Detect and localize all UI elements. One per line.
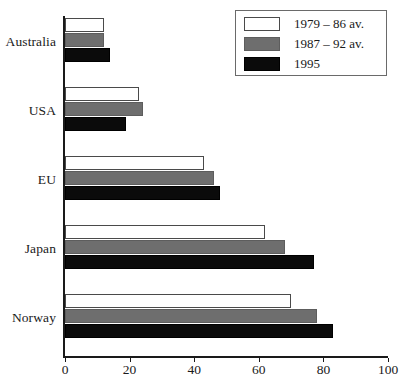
bar-norway-1995 xyxy=(65,324,333,338)
category-label-norway: Norway xyxy=(12,310,56,326)
category-group-norway: Norway xyxy=(65,294,388,342)
legend-entry-1987-92: 1987 – 92 av. xyxy=(244,35,364,53)
x-tick-label-100: 100 xyxy=(378,362,398,378)
bar-usa-1995 xyxy=(65,117,126,131)
legend-label-1987-92: 1987 – 92 av. xyxy=(294,36,364,52)
category-label-australia: Australia xyxy=(6,34,56,50)
bar-eu-1979-86 xyxy=(65,156,204,170)
legend-swatch-1995 xyxy=(244,57,280,71)
category-group-usa: USA xyxy=(65,87,388,135)
bar-eu-1995 xyxy=(65,186,220,200)
legend-swatch-1987-92 xyxy=(244,37,280,51)
bar-norway-1987-92 xyxy=(65,309,317,323)
legend-entry-1995: 1995 xyxy=(244,55,320,73)
x-tick-label-60: 60 xyxy=(252,362,266,378)
bar-japan-1979-86 xyxy=(65,225,265,239)
category-label-usa: USA xyxy=(29,103,56,119)
legend-entry-1979-86: 1979 – 86 av. xyxy=(244,15,364,33)
x-tick-label-0: 0 xyxy=(62,362,69,378)
category-group-japan: Japan xyxy=(65,225,388,273)
bar-japan-1987-92 xyxy=(65,240,285,254)
chart-legend: 1979 – 86 av. 1987 – 92 av. 1995 xyxy=(235,10,387,76)
bar-chart: Australia USA EU Japan Norway xyxy=(0,0,403,389)
category-label-eu: EU xyxy=(38,172,56,188)
bar-norway-1979-86 xyxy=(65,294,291,308)
x-tick-label-40: 40 xyxy=(187,362,201,378)
bar-japan-1995 xyxy=(65,255,314,269)
legend-label-1995: 1995 xyxy=(294,56,320,72)
category-label-japan: Japan xyxy=(25,241,56,257)
x-tick-label-20: 20 xyxy=(123,362,137,378)
legend-swatch-1979-86 xyxy=(244,17,280,31)
bar-australia-1979-86 xyxy=(65,18,104,32)
category-group-eu: EU xyxy=(65,156,388,204)
bar-australia-1987-92 xyxy=(65,33,104,47)
bar-australia-1995 xyxy=(65,48,110,62)
bar-usa-1987-92 xyxy=(65,102,143,116)
x-tick-label-80: 80 xyxy=(317,362,331,378)
bar-eu-1987-92 xyxy=(65,171,214,185)
bar-usa-1979-86 xyxy=(65,87,139,101)
legend-label-1979-86: 1979 – 86 av. xyxy=(294,16,364,32)
x-axis-line xyxy=(63,356,388,358)
